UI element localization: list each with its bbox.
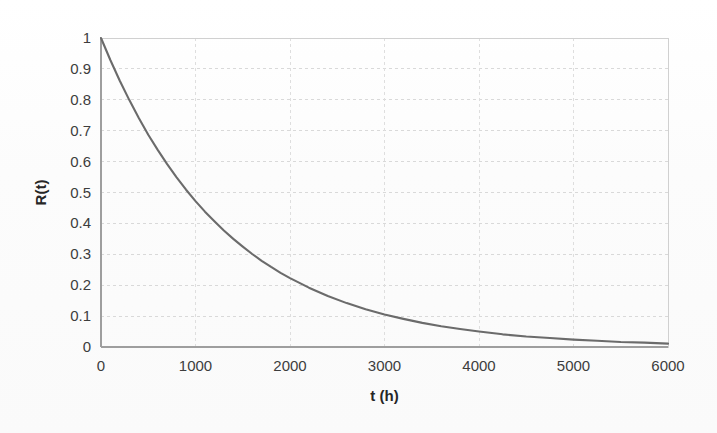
y-tick-label: 0.2	[70, 276, 91, 293]
x-axis-tick-labels: 0100020003000400050006000	[97, 357, 685, 374]
x-tick-label: 6000	[651, 357, 684, 374]
y-tick-label: 0.6	[70, 153, 91, 170]
plot-canvas: 00.10.20.30.40.50.60.70.80.91 0100020003…	[0, 0, 717, 433]
x-tick-label: 2000	[273, 357, 306, 374]
y-axis-tick-labels: 00.10.20.30.40.50.60.70.80.91	[70, 29, 91, 355]
y-tick-label: 0.7	[70, 122, 91, 139]
y-tick-label: 0.5	[70, 184, 91, 201]
x-tick-label: 5000	[557, 357, 590, 374]
x-axis-title: t (h)	[370, 387, 398, 404]
x-tick-label: 0	[97, 357, 105, 374]
y-tick-label: 0.1	[70, 307, 91, 324]
y-tick-label: 1	[83, 29, 91, 46]
horizontal-gridlines	[101, 38, 668, 347]
chart-page: 00.10.20.30.40.50.60.70.80.91 0100020003…	[0, 0, 717, 433]
x-tick-label: 3000	[368, 357, 401, 374]
y-tick-label: 0.9	[70, 60, 91, 77]
y-tick-label: 0	[83, 338, 91, 355]
reliability-decay-chart: 00.10.20.30.40.50.60.70.80.91 0100020003…	[0, 0, 717, 433]
y-axis-title: R(t)	[32, 180, 49, 206]
x-tick-label: 1000	[179, 357, 212, 374]
y-tick-label: 0.4	[70, 214, 91, 231]
y-tick-label: 0.8	[70, 91, 91, 108]
x-tick-label: 4000	[462, 357, 495, 374]
y-tick-label: 0.3	[70, 245, 91, 262]
